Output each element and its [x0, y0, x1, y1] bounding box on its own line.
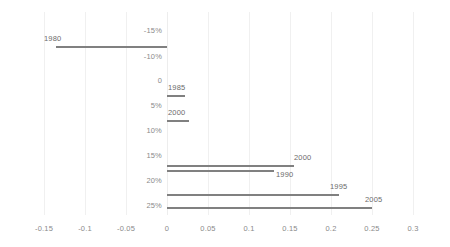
x-axis-tick-0.1: 0.1 [229, 224, 269, 233]
bar-label-2005: 2005 [365, 195, 383, 204]
gridline-x-0.05 [208, 12, 209, 215]
x-axis-tick--0.15: -0.15 [24, 224, 64, 233]
y-axis-tick--5: 0 [122, 76, 162, 85]
bar-label-1980: 1980 [44, 34, 62, 43]
bar-label-1985: 1985 [168, 83, 186, 92]
bar-label-2000-upper: 2000 [168, 108, 186, 117]
gridline-x-0.25 [372, 12, 373, 215]
y-axis-tick--15: -15% [122, 26, 162, 35]
plot-area: -15% -10% 0 5% 10% 15% 20% 25% 1980 1985… [0, 0, 450, 247]
bar-label-2000-lower: 2000 [294, 153, 312, 162]
bar-label-1990: 1990 [276, 170, 294, 179]
bar-chart: -15% -10% 0 5% 10% 15% 20% 25% 1980 1985… [0, 0, 450, 247]
x-axis-tick-0.05: 0.05 [188, 224, 228, 233]
bar-2000-upper[interactable] [167, 120, 189, 122]
bar-1985[interactable] [167, 95, 185, 97]
y-axis-tick-5: 5% [122, 101, 162, 110]
y-axis-tick-10: 10% [122, 126, 162, 135]
x-axis-tick-0.3: 0.3 [393, 224, 433, 233]
y-axis-tick-25: 25% [122, 201, 162, 210]
x-axis-tick-0.2: 0.2 [311, 224, 351, 233]
gridline-x-0.1 [249, 12, 250, 215]
bar-1995[interactable] [167, 194, 339, 196]
x-axis-tick-0.15: 0.15 [270, 224, 310, 233]
x-axis-tick-0: 0 [147, 224, 187, 233]
y-axis-tick-20: 20% [122, 176, 162, 185]
bar-2005[interactable] [167, 207, 372, 209]
gridline-x-0.3 [413, 12, 414, 215]
bar-1990[interactable] [167, 170, 274, 172]
x-axis-tick-0.25: 0.25 [352, 224, 392, 233]
gridline-x--0.1 [85, 12, 86, 215]
x-axis-tick--0.05: -0.05 [106, 224, 146, 233]
y-axis-tick--10: -10% [122, 52, 162, 61]
bar-1980[interactable] [56, 46, 167, 48]
x-axis-tick--0.1: -0.1 [65, 224, 105, 233]
bar-2000-lower[interactable] [167, 165, 294, 167]
bar-label-1995: 1995 [330, 182, 348, 191]
gridline-x-0.15 [290, 12, 291, 215]
y-axis-tick-15: 15% [122, 151, 162, 160]
